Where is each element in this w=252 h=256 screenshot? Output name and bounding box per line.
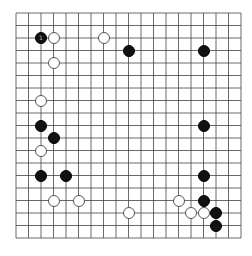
white-stone[interactable] (35, 95, 47, 107)
white-stone[interactable] (73, 195, 85, 207)
black-stone[interactable] (198, 120, 210, 132)
black-stone[interactable] (210, 207, 222, 219)
white-stone[interactable] (123, 207, 135, 219)
white-stone[interactable] (35, 145, 47, 157)
black-stone[interactable] (123, 45, 135, 57)
white-stone[interactable] (48, 32, 60, 44)
black-stone[interactable] (35, 120, 47, 132)
black-stone[interactable] (35, 170, 47, 182)
white-stone[interactable] (185, 207, 197, 219)
white-stone[interactable] (198, 207, 210, 219)
white-stone[interactable] (48, 57, 60, 69)
black-stone[interactable]: 1 (35, 32, 47, 44)
white-stone[interactable] (48, 195, 60, 207)
black-stone[interactable] (210, 220, 222, 232)
go-board[interactable]: 1 (0, 0, 252, 256)
black-stone[interactable] (198, 170, 210, 182)
black-stone[interactable] (198, 45, 210, 57)
move-number-label: 1 (36, 33, 46, 43)
black-stone[interactable] (60, 170, 72, 182)
black-stone[interactable] (48, 132, 60, 144)
black-stone[interactable] (198, 195, 210, 207)
white-stone[interactable] (173, 195, 185, 207)
white-stone[interactable] (98, 32, 110, 44)
